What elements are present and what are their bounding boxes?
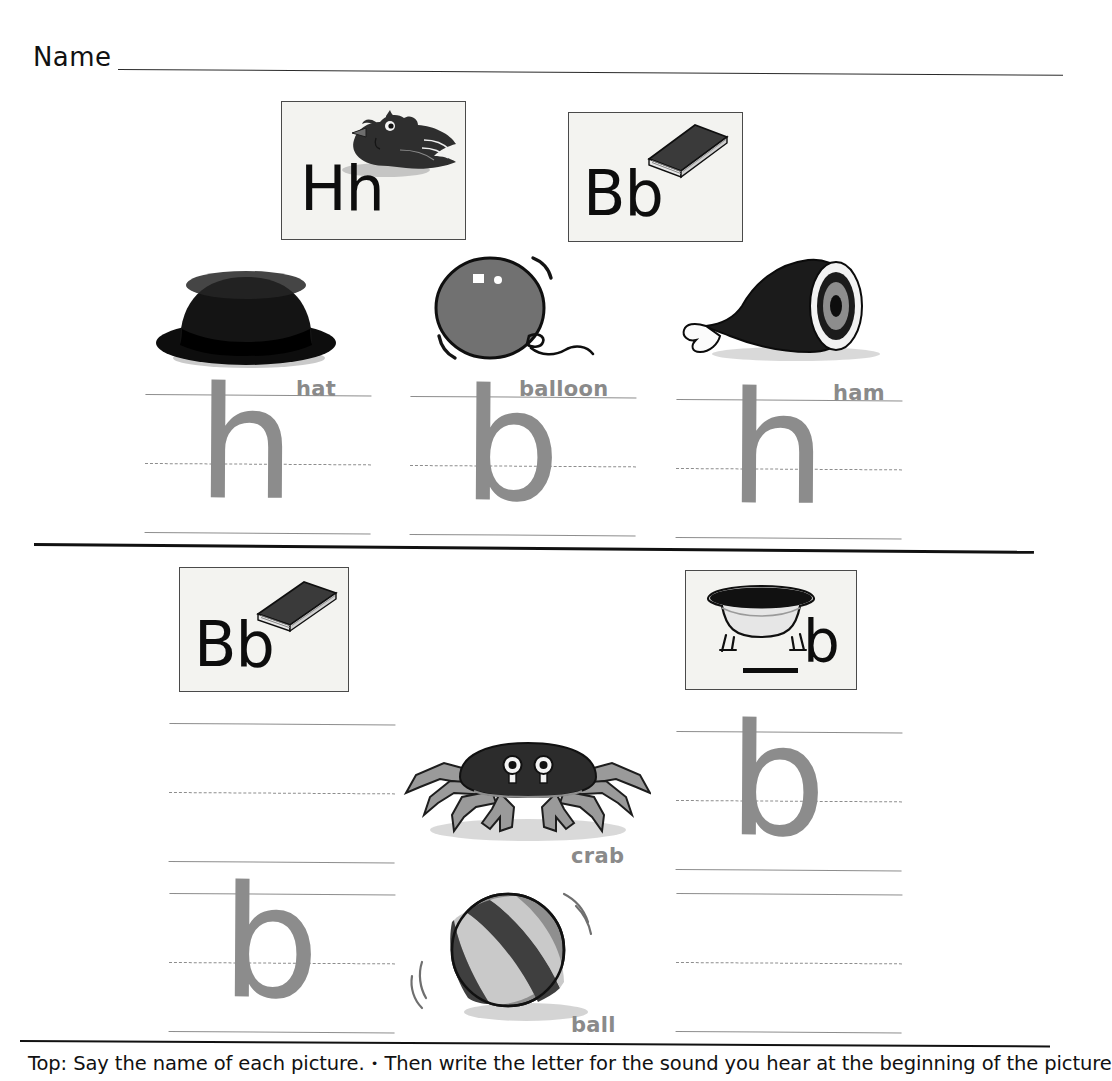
practice-lines-empty-right-2[interactable] — [676, 893, 903, 1034]
picture-label-ball: ball — [571, 1013, 616, 1037]
practice-lines-empty-left-1[interactable] — [169, 723, 396, 864]
name-label: Name — [33, 42, 111, 72]
letter-card-tub-blank-line[interactable] — [743, 668, 798, 673]
balloon-icon — [415, 252, 630, 372]
practice-lines-ball[interactable]: b — [169, 893, 396, 1034]
practice-bottom-line — [676, 1031, 902, 1033]
footer-instruction-part2: Then write the letter for the sound you … — [384, 1052, 1111, 1075]
footer-divider — [20, 1040, 1050, 1047]
letter-card-hh: Hh — [281, 101, 466, 240]
practice-letter-b: b — [462, 368, 561, 524]
practice-top-line — [676, 893, 902, 895]
practice-letter-b: b — [221, 865, 320, 1021]
footer-bullet-icon: • — [371, 1056, 379, 1071]
letter-card-hh-label: Hh — [300, 158, 384, 220]
practice-letter-h: h — [728, 371, 827, 527]
practice-letter-h: h — [197, 366, 296, 522]
practice-letter-b: b — [728, 703, 827, 859]
letter-card-bb-bottom: Bb — [179, 567, 349, 692]
letter-card-bb-top-label: Bb — [583, 163, 663, 225]
name-row: Name — [33, 42, 1033, 76]
letter-card-bb-bottom-label: Bb — [194, 614, 274, 676]
practice-mid-line — [676, 962, 902, 964]
letter-card-tub: b — [685, 570, 857, 690]
letter-card-tub-label: b — [803, 613, 839, 671]
name-write-line[interactable] — [118, 69, 1063, 76]
practice-mid-line — [169, 792, 395, 794]
letter-card-bb-top: Bb — [568, 112, 743, 242]
footer-instruction-part1: Top: Say the name of each picture. — [28, 1052, 365, 1075]
footer-instruction: Top: Say the name of each picture. • The… — [28, 1052, 1048, 1075]
ham-icon — [676, 252, 901, 364]
crab-icon — [396, 735, 651, 850]
practice-lines-ham[interactable]: h — [676, 399, 903, 540]
practice-lines-balloon[interactable]: b — [410, 396, 637, 537]
section-divider — [34, 543, 1034, 554]
practice-lines-hat[interactable]: h — [145, 394, 372, 535]
practice-lines-crab[interactable]: b — [676, 731, 903, 872]
picture-label-crab: crab — [571, 844, 624, 868]
ball-icon — [404, 884, 624, 1024]
practice-top-line — [169, 723, 395, 725]
